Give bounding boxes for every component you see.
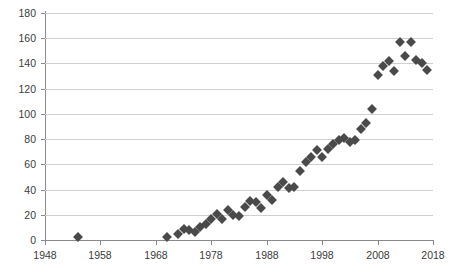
y-tick-label: 180 (0, 8, 36, 19)
gridline (45, 114, 433, 115)
gridline (45, 38, 433, 39)
y-axis-line (45, 11, 46, 242)
data-point (339, 133, 349, 143)
data-point (323, 144, 333, 154)
x-tick-mark (267, 241, 268, 245)
data-point (367, 104, 377, 114)
data-point (423, 65, 433, 75)
data-point (190, 227, 200, 237)
data-point (262, 190, 272, 200)
data-point (251, 197, 261, 207)
x-tick-mark (45, 241, 46, 245)
data-point (278, 177, 288, 187)
gridline (45, 63, 433, 64)
data-point (267, 195, 277, 205)
data-point (184, 225, 194, 235)
x-axis-line (45, 240, 434, 241)
scatter-chart: 020406080100120140160180 194819581968197… (0, 0, 459, 276)
data-point (334, 135, 344, 145)
y-tick-mark (41, 63, 45, 64)
data-point (400, 51, 410, 61)
gridline (45, 13, 433, 14)
y-tick-label: 160 (0, 33, 36, 44)
data-point (328, 139, 338, 149)
y-tick-mark (41, 190, 45, 191)
y-tick-label: 140 (0, 58, 36, 69)
data-point-layer (0, 0, 459, 276)
y-tick-label: 0 (0, 235, 36, 246)
data-point (389, 66, 399, 76)
data-point (317, 152, 327, 162)
x-tick-mark (100, 241, 101, 245)
x-tick-label: 1968 (136, 250, 176, 261)
y-tick-mark (41, 114, 45, 115)
y-tick-mark (41, 139, 45, 140)
gridline (45, 139, 433, 140)
y-tick-label: 20 (0, 210, 36, 221)
data-point (373, 70, 383, 80)
data-point (223, 205, 233, 215)
x-tick-label: 2018 (413, 250, 453, 261)
gridline (45, 215, 433, 216)
data-point (240, 202, 250, 212)
data-point (256, 204, 266, 214)
data-point (245, 196, 255, 206)
data-point (234, 211, 244, 221)
data-point (195, 222, 205, 232)
y-tick-label: 100 (0, 109, 36, 120)
data-point (212, 209, 222, 219)
x-tick-mark (322, 241, 323, 245)
y-tick-label: 60 (0, 159, 36, 170)
x-tick-mark (211, 241, 212, 245)
gridline (45, 190, 433, 191)
x-tick-label: 1948 (25, 250, 65, 261)
data-point (362, 118, 372, 128)
data-point (301, 157, 311, 167)
data-point (295, 166, 305, 176)
y-tick-label: 120 (0, 84, 36, 95)
data-point (384, 56, 394, 66)
x-tick-mark (378, 241, 379, 245)
gridline (45, 89, 433, 90)
data-point (350, 135, 360, 145)
data-point (173, 229, 183, 239)
data-point (312, 146, 322, 156)
data-point (356, 124, 366, 134)
y-tick-mark (41, 13, 45, 14)
data-point (284, 183, 294, 193)
data-point (306, 152, 316, 162)
y-tick-label: 80 (0, 134, 36, 145)
x-tick-mark (156, 241, 157, 245)
x-tick-label: 2008 (358, 250, 398, 261)
data-point (179, 224, 189, 234)
x-tick-label: 1978 (191, 250, 231, 261)
y-tick-mark (41, 38, 45, 39)
y-tick-mark (41, 164, 45, 165)
x-tick-label: 1958 (80, 250, 120, 261)
x-tick-label: 1998 (302, 250, 342, 261)
x-tick-mark (433, 241, 434, 245)
gridline (45, 164, 433, 165)
y-tick-mark (41, 215, 45, 216)
x-tick-label: 1988 (247, 250, 287, 261)
y-tick-mark (41, 89, 45, 90)
y-tick-label: 40 (0, 185, 36, 196)
data-point (201, 219, 211, 229)
